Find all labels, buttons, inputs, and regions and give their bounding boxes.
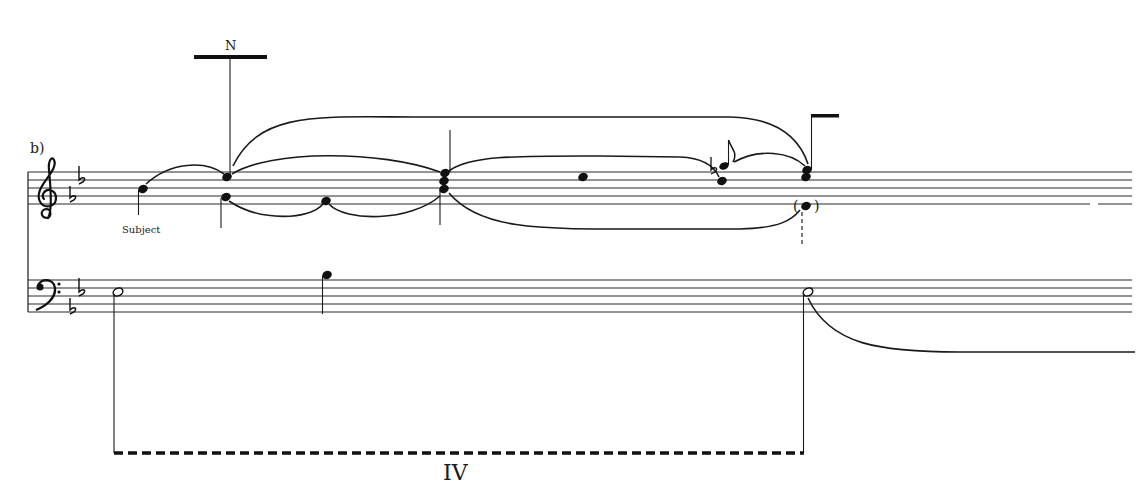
treble-key-signature (70, 166, 85, 202)
chord (438, 130, 451, 225)
neighbor-label: N (225, 38, 236, 53)
slur (329, 196, 440, 217)
note (577, 171, 589, 182)
slur (232, 156, 440, 174)
subject-note (137, 183, 149, 215)
slur (229, 201, 323, 216)
slur (146, 165, 224, 184)
slur (734, 153, 805, 166)
long-slur (233, 117, 808, 166)
bass-half-note-1 (112, 286, 124, 453)
bass-quarter-note (321, 269, 333, 314)
subject-label: Subject (122, 224, 160, 235)
svg-text:(: ( (793, 198, 798, 214)
svg-text:): ) (814, 198, 819, 214)
neighbor-beam (194, 55, 267, 59)
bass-staff (28, 280, 1132, 312)
implied-note: ( ) (793, 198, 819, 246)
bass-half-note-2 (802, 286, 1135, 453)
slur (449, 193, 800, 229)
bass-clef-icon (36, 280, 61, 310)
part-label: b) (30, 140, 44, 156)
harmony-label: IV (443, 460, 469, 485)
